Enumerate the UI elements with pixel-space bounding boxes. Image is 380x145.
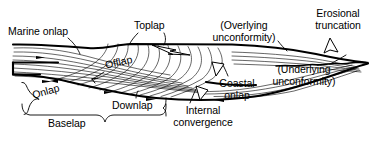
label-downlap: Downlap <box>112 100 153 112</box>
label-marine-onlap: Marine onlap <box>8 26 68 38</box>
arrow-toplap-hollow <box>152 45 190 55</box>
label-toplap: Toplap <box>134 20 165 32</box>
arrow-erosional-truncation <box>324 38 338 53</box>
label-coastal-onlap: Coastal onlap <box>216 78 258 102</box>
label-erosional-truncation: Erosional truncation <box>308 8 368 32</box>
label-overlying-unconformity: (Overlying unconformity) <box>205 20 283 44</box>
label-baselap: Baselap <box>48 118 86 130</box>
arrow-coastal-onlap <box>212 62 224 76</box>
figure-seismic-stratigraphy-terminology: Marine onlap Toplap (Overlying unconform… <box>0 0 380 145</box>
overlying-unconformity-surface <box>13 44 366 63</box>
arrow-internal-convergence <box>196 86 208 100</box>
label-underlying-unconformity: (Underlying unconformity) <box>264 64 344 88</box>
label-internal-convergence: Internal convergence <box>172 105 234 129</box>
